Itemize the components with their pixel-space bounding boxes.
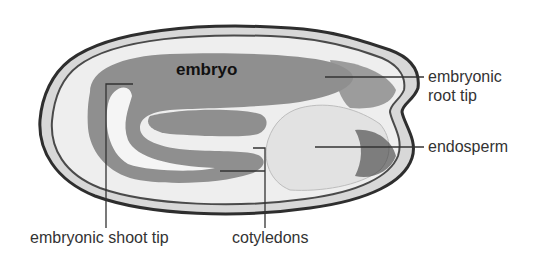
label-root-tip-line1: embryonic bbox=[428, 67, 502, 86]
cotyledon-upper bbox=[148, 110, 267, 137]
label-embryo: embryo bbox=[176, 60, 237, 80]
label-cotyledons: cotyledons bbox=[232, 228, 309, 247]
seed-diagram: embryo embryonic root tip endosperm embr… bbox=[0, 0, 554, 268]
label-shoot-tip: embryonic shoot tip bbox=[30, 228, 169, 247]
label-root-tip-line2: root tip bbox=[428, 86, 477, 105]
label-endosperm: endosperm bbox=[428, 137, 508, 156]
